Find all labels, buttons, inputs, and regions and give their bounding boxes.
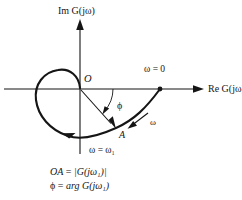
omega-zero-label: ω = 0 [144,65,165,75]
point-a-label: A [119,130,125,140]
omega-zero-label-text: ω = 0 [144,64,165,74]
omega-zero-point-marker [158,87,163,92]
vector-oa [81,90,116,129]
magnitude-equation: OA = |G(jω₁)| [50,167,107,177]
omega-direction-label-text: ω [150,117,156,127]
nyquist-locus-curve [36,70,160,139]
phase-equation-operator: = [58,180,64,191]
magnitude-equation-operator: = [66,166,72,177]
imaginary-axis-label: Im G(jω) [58,6,95,16]
real-axis [4,85,204,93]
nyquist-plot-figure: Im G(jω) Re G(jω) O ϕ ω = 0 A ω ω = ω₁ O… [0,0,242,200]
origin-label-text: O [84,73,92,84]
point-a-label-text: A [119,129,125,140]
origin-label: O [84,74,92,85]
omega-one-label: ω = ω₁ [89,146,115,156]
phi-arc [102,89,113,114]
phase-equation-rhs: arg G(jω₁) [66,180,109,191]
omega-one-label-text: ω = ω₁ [89,145,115,155]
magnitude-equation-lhs: OA [50,166,63,177]
phase-equation-lhs: ϕ [50,180,55,191]
magnitude-equation-rhs: |G(jω₁)| [74,166,107,177]
phi-label-text: ϕ [117,100,122,111]
imaginary-axis-label-text: Im G(jω) [58,5,95,16]
real-axis-label-text: Re G(jω) [208,83,242,94]
real-axis-label: Re G(jω) [208,84,242,94]
omega-direction-label: ω [150,118,156,127]
phi-label: ϕ [117,101,122,111]
phase-equation: ϕ = arg G(jω₁) [50,181,109,191]
